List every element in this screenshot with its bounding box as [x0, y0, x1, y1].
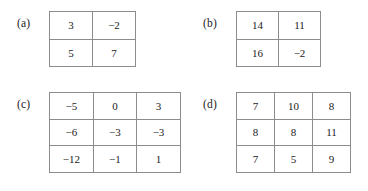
matrix-cell: 3: [50, 12, 93, 40]
matrix-label-c: (c): [17, 99, 30, 111]
matrix-cell: 14: [237, 12, 279, 40]
matrix-cell: 8: [237, 120, 275, 147]
matrix-cell: 8: [313, 93, 351, 120]
matrix-grid-b: 14 11 16 −2: [236, 11, 321, 67]
matrix-row: 5 7: [50, 40, 136, 68]
matrix-cell: 11: [279, 12, 321, 40]
figure-canvas: (a) 3 −2 5 7 (b) 14 11 16 −2 (c): [0, 0, 368, 191]
matrix-cell: 9: [313, 146, 351, 173]
matrix-grid-c: −5 0 3 −6 −3 −3 −12 −1 1: [49, 92, 181, 173]
matrix-row: −6 −3 −3: [50, 120, 181, 147]
matrix-label-d: (d): [203, 99, 217, 111]
matrix-grid-d: 7 10 8 8 8 11 7 5 9: [236, 92, 351, 173]
matrix-row: −5 0 3: [50, 93, 181, 120]
matrix-cell: −2: [279, 40, 321, 68]
matrix-cell: 16: [237, 40, 279, 68]
matrix-cell: −2: [93, 12, 136, 40]
matrix-cell: −1: [94, 146, 138, 173]
matrix-row: 16 −2: [237, 40, 321, 68]
matrix-cell: −3: [94, 120, 138, 147]
matrix-row: 7 10 8: [237, 93, 351, 120]
matrix-label-b: (b): [203, 18, 217, 30]
matrix-cell: 1: [137, 146, 181, 173]
matrix-cell: 11: [313, 120, 351, 147]
matrix-cell: 7: [93, 40, 136, 68]
matrix-cell: −3: [137, 120, 181, 147]
matrix-row: 3 −2: [50, 12, 136, 40]
matrix-label-a: (a): [17, 18, 30, 30]
matrix-cell: 7: [237, 93, 275, 120]
matrix-row: 14 11: [237, 12, 321, 40]
matrix-grid-a: 3 −2 5 7: [49, 11, 136, 67]
matrix-cell: 3: [137, 93, 181, 120]
matrix-cell: −12: [50, 146, 94, 173]
matrix-cell: 10: [275, 93, 313, 120]
matrix-cell: −5: [50, 93, 94, 120]
matrix-cell: 5: [50, 40, 93, 68]
matrix-row: 7 5 9: [237, 146, 351, 173]
matrix-cell: 8: [275, 120, 313, 147]
matrix-cell: 7: [237, 146, 275, 173]
matrix-cell: 0: [94, 93, 138, 120]
matrix-row: 8 8 11: [237, 120, 351, 147]
matrix-cell: 5: [275, 146, 313, 173]
matrix-cell: −6: [50, 120, 94, 147]
matrix-row: −12 −1 1: [50, 146, 181, 173]
